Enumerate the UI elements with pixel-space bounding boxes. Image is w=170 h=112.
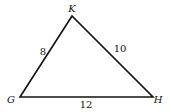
side-label-kh: 10	[114, 43, 127, 54]
triangle-diagram: K G H 8 10 12	[0, 0, 170, 112]
side-label-gk: 8	[40, 46, 46, 57]
side-label-gh: 12	[80, 99, 93, 110]
vertex-label-k: K	[67, 3, 76, 14]
vertex-label-h: H	[153, 94, 163, 105]
vertex-label-g: G	[7, 94, 15, 105]
